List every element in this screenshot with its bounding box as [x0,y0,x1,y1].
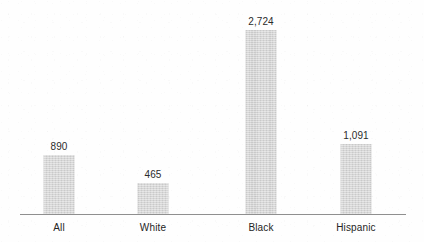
bar-column-white: 465 [110,0,196,214]
x-axis-label-black: Black [218,221,304,234]
x-axis-label-all: All [16,221,102,234]
plot-area: 890 465 2,724 1,091 All [0,0,424,242]
bar-white[interactable] [138,183,169,214]
bar-value-label-black: 2,724 [218,16,304,28]
bar-hispanic[interactable] [341,144,372,214]
x-axis-line [20,214,406,215]
bar-column-all: 890 [16,0,102,214]
bar-group-all: 890 [16,0,102,214]
bar-group-black: 2,724 [218,0,304,214]
bar-group-white: 465 [110,0,196,214]
x-axis-label-white: White [110,221,196,234]
bar-black[interactable] [246,30,277,214]
bar-column-black: 2,724 [218,0,304,214]
bar-value-label-hispanic: 1,091 [313,130,399,142]
bar-group-hispanic: 1,091 [313,0,399,214]
bar-all[interactable] [44,155,75,214]
bar-value-label-all: 890 [16,141,102,153]
bar-column-hispanic: 1,091 [313,0,399,214]
bar-value-label-white: 465 [110,169,196,181]
bar-chart: 890 465 2,724 1,091 All [0,0,424,242]
x-axis-label-hispanic: Hispanic [313,221,399,234]
